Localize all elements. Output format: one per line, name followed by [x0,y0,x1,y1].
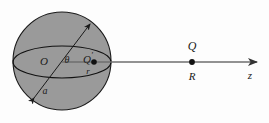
label-center-O: O [40,55,48,67]
label-source-point-letter: Q [83,53,91,65]
label-field-point-Q: Q [188,39,197,53]
field-point-marker [189,59,195,65]
source-point-marker [91,59,97,65]
label-angle-theta: θ [65,54,70,65]
figure-canvas: O θ Q ′ r a Q R z [0,0,269,123]
label-field-distance-R: R [188,70,196,82]
label-axis-z: z [247,69,253,81]
label-source-radius-r: r [86,66,90,76]
physics-figure: O θ Q ′ r a Q R z [0,0,269,123]
label-sphere-radius-a: a [43,85,48,96]
